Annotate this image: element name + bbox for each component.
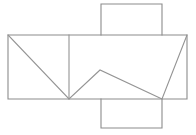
net-diagram-svg — [0, 0, 196, 135]
figure-background — [0, 0, 196, 135]
net-figure-container — [0, 0, 196, 135]
